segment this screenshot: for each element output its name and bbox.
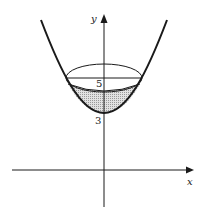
y-axis-label: y xyxy=(90,13,97,24)
diagram-canvas: y x 5 3 xyxy=(0,0,206,217)
x-axis-arrow-icon xyxy=(186,167,194,174)
vertex-value-label: 3 xyxy=(95,115,101,126)
rim-value-label: 5 xyxy=(96,78,102,89)
x-axis-label: x xyxy=(187,176,193,187)
y-axis-arrow-icon xyxy=(101,14,108,23)
